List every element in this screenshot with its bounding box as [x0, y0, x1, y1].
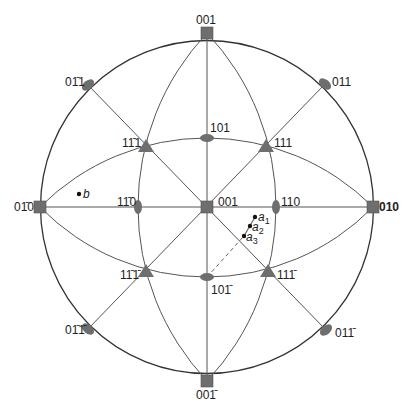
pole-label: 01̄0	[14, 201, 34, 213]
data-point-dot	[77, 192, 81, 196]
pole-label: 11̄0	[117, 196, 136, 208]
pole-label: 011	[332, 76, 351, 88]
pole-label: 111̄	[277, 269, 295, 281]
pole-label: 001	[218, 196, 238, 208]
pole-square-icon	[201, 375, 213, 387]
point-label-main: a	[246, 230, 253, 244]
point-label-main: b	[83, 187, 90, 201]
pole-ellipse-icon	[272, 200, 280, 214]
point-label-subscript: 2	[259, 226, 264, 236]
pole-label: 010	[379, 201, 399, 213]
pole-label: 101̄	[211, 284, 231, 296]
point-label: b	[83, 188, 90, 200]
pole-label: 001	[196, 14, 216, 26]
pole-square-icon	[367, 201, 379, 213]
point-label-subscript: 1	[265, 216, 270, 226]
pole-label: 111	[274, 137, 292, 149]
pole-label: 001̄	[196, 389, 216, 401]
pole-label: 101	[210, 122, 230, 134]
projection-canvas	[0, 0, 411, 410]
point-label-subscript: 3	[253, 236, 258, 246]
pole-square-icon	[201, 201, 213, 213]
pole-label: 110	[281, 196, 300, 208]
pole-square-icon	[34, 201, 46, 213]
stereographic-projection: 001001̄01̄001000101̄101101̄1̄011̄101101̄…	[0, 0, 411, 410]
data-point-dot	[253, 215, 257, 219]
pole-triangle-icon	[258, 139, 274, 152]
point-label: a3	[246, 231, 258, 247]
dashed-trace-line	[207, 236, 244, 277]
pole-label: 11̄1̄	[120, 269, 139, 281]
pole-square-icon	[201, 27, 213, 39]
pole-label: 01̄1̄	[65, 324, 85, 336]
pole-ellipse-icon	[200, 134, 214, 142]
pole-ellipse-icon	[200, 273, 214, 281]
pole-label: 11̄1	[122, 137, 141, 149]
pole-label: 011̄	[335, 327, 354, 339]
pole-label: 01̄1	[65, 76, 85, 88]
